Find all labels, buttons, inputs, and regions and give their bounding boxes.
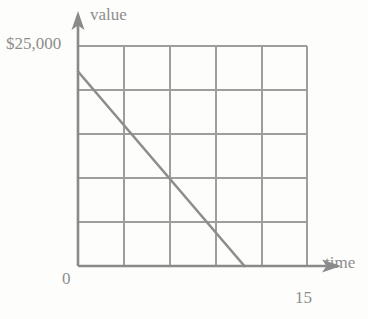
chart-axes <box>72 11 342 273</box>
data-line-value <box>78 72 244 266</box>
chart-series-value <box>78 72 244 266</box>
value-time-chart: value $25,000 0 time 15 <box>0 0 368 319</box>
x-axis-max-tick-label: 15 <box>295 289 312 306</box>
chart-gridlines <box>78 46 307 266</box>
y-axis-max-tick-label: $25,000 <box>6 35 61 52</box>
x-axis-label: time <box>325 254 355 271</box>
y-axis-label: value <box>90 6 127 23</box>
origin-tick-label: 0 <box>62 270 71 287</box>
